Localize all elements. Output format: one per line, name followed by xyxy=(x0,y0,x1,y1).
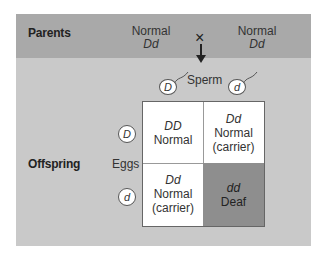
cell-genotype: Dd xyxy=(165,173,180,187)
parents-label: Parents xyxy=(28,26,71,40)
down-arrow-icon xyxy=(196,44,206,64)
sperm-label: Sperm xyxy=(187,73,222,87)
cell-phenotype: Normal xyxy=(154,133,193,147)
sperm-D: D xyxy=(159,79,177,95)
parent-2-phenotype: Normal xyxy=(238,24,277,38)
cell-DD: DD Normal xyxy=(143,102,204,164)
cell-genotype: dd xyxy=(227,181,240,195)
offspring-label: Offspring xyxy=(28,157,80,171)
egg-d: d xyxy=(118,188,136,206)
cell-phenotype: Normal xyxy=(214,126,253,140)
parent-2-genotype: Dd xyxy=(232,38,282,51)
parent-1-genotype: Dd xyxy=(126,38,176,51)
sperm-d: d xyxy=(228,79,246,95)
parent-2: Normal Dd xyxy=(232,25,282,51)
parent-1-phenotype: Normal xyxy=(132,24,171,38)
cell-phenotype: Deaf xyxy=(221,195,246,209)
egg-D: D xyxy=(118,125,136,143)
cell-Dd-top: Dd Normal (carrier) xyxy=(203,102,264,164)
cell-Dd-bottom: Dd Normal (carrier) xyxy=(143,163,204,225)
cell-note: (carrier) xyxy=(152,201,194,215)
cell-genotype: Dd xyxy=(226,112,241,126)
cell-note: (carrier) xyxy=(213,140,255,154)
cell-genotype: DD xyxy=(164,119,181,133)
cell-dd: dd Deaf xyxy=(203,163,264,226)
parent-1: Normal Dd xyxy=(126,25,176,51)
cell-phenotype: Normal xyxy=(154,187,193,201)
eggs-label: Eggs xyxy=(112,157,139,171)
